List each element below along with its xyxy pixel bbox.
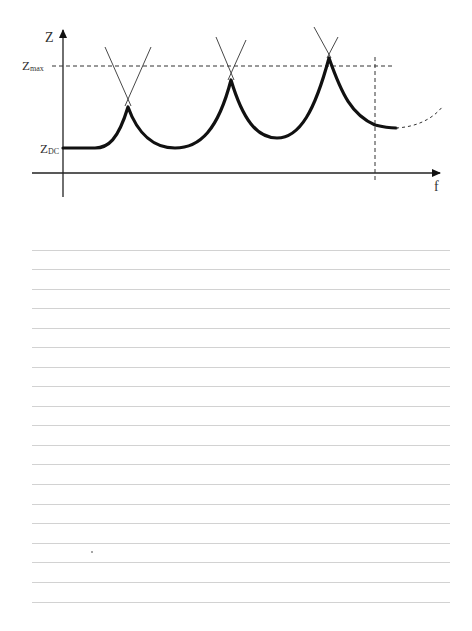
- impedance-frequency-diagram: Z f Zmax ZDC: [0, 0, 472, 215]
- ruled-line: [32, 308, 450, 309]
- x-axis-label: f: [434, 179, 439, 194]
- ruled-line: [32, 406, 450, 407]
- zdc-label: ZDC: [40, 141, 59, 156]
- ruled-line: [32, 562, 450, 563]
- ruled-line: [32, 289, 450, 290]
- ruled-line: [32, 367, 450, 368]
- ruled-line: [32, 347, 450, 348]
- zmax-label: Zmax: [22, 58, 44, 73]
- ruled-line: [32, 504, 450, 505]
- ruled-line: [32, 602, 450, 603]
- ruled-line: [32, 386, 450, 387]
- ruled-line: [32, 269, 450, 270]
- stray-mark: [91, 551, 93, 553]
- ruled-line: [32, 523, 450, 524]
- ruled-line: [32, 464, 450, 465]
- ruled-line: [32, 543, 450, 544]
- y-axis-label: Z: [45, 30, 54, 45]
- ruled-line: [32, 425, 450, 426]
- impedance-curve: [63, 58, 396, 148]
- ruled-line: [32, 328, 450, 329]
- ruled-line: [32, 484, 450, 485]
- ruled-line: [32, 582, 450, 583]
- extrapolation-dashed-curve: [396, 106, 443, 128]
- ruled-line: [32, 250, 450, 251]
- ruled-line: [32, 445, 450, 446]
